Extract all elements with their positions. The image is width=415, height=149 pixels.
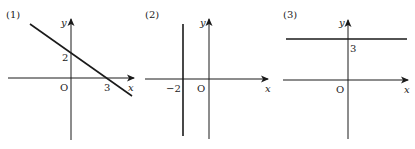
y-axis-label: y xyxy=(338,17,345,28)
x-value-label: −2 xyxy=(166,83,181,94)
origin-label: O xyxy=(197,83,205,94)
x-axis-label: x xyxy=(265,83,271,94)
y-intercept-label: 2 xyxy=(62,52,68,63)
y-axis-label: y xyxy=(60,17,67,28)
panel-3-label: (3) xyxy=(283,9,297,20)
origin-label: O xyxy=(336,84,344,95)
y-axis-label: y xyxy=(199,17,206,28)
panel-2: (2) y x O −2 xyxy=(145,9,271,139)
x-axis-label: x xyxy=(404,84,410,95)
origin-label: O xyxy=(60,82,68,93)
panel-1-label: (1) xyxy=(6,9,20,20)
panel-1: (1) y x O 2 3 xyxy=(6,9,134,140)
x-axis-label: x xyxy=(128,82,134,93)
graphs-figure: (1) y x O 2 3 (2) y x O −2 (3) y x O 3 xyxy=(0,0,415,149)
y-value-label: 3 xyxy=(350,43,356,54)
graph-line xyxy=(30,24,132,96)
panel-3: (3) y x O 3 xyxy=(283,9,410,139)
x-intercept-label: 3 xyxy=(104,82,110,93)
panel-2-label: (2) xyxy=(145,9,159,20)
